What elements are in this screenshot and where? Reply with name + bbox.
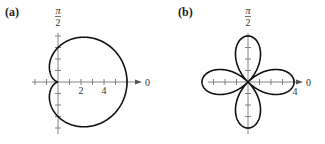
polar-axis-label: 0: [145, 77, 150, 88]
x-tick-label: 4: [293, 86, 298, 97]
panel-b: (b)0π24: [178, 5, 311, 134]
panel-label: (a): [5, 5, 19, 19]
pi-over-2-denominator: 2: [56, 17, 61, 28]
arrow-right-icon: [135, 79, 142, 84]
pi-over-2-numerator: π: [55, 5, 61, 16]
panel-a: (a)0π224: [5, 5, 150, 134]
panel-label: (b): [178, 5, 193, 19]
x-tick-label: 2: [79, 85, 84, 96]
polar-graphs-figure: (a)0π224 (b)0π24: [0, 0, 325, 144]
arrow-right-icon: [296, 79, 303, 84]
polar-axis-label: 0: [306, 77, 311, 88]
pi-over-2-denominator: 2: [246, 17, 251, 28]
x-tick-label: 4: [102, 85, 107, 96]
pi-over-2-numerator: π: [245, 5, 251, 16]
